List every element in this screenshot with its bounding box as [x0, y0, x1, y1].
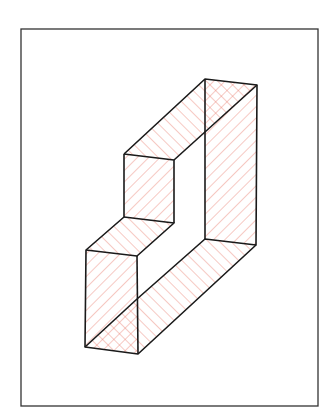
face-upper-front	[124, 154, 174, 223]
prism-drawing	[0, 0, 334, 418]
diagram-canvas: Isometric hatched Z-shaped prism	[0, 0, 334, 418]
hatched-faces	[85, 79, 257, 354]
face-bottom-diagonal	[137, 239, 256, 354]
face-step-top	[86, 217, 174, 256]
